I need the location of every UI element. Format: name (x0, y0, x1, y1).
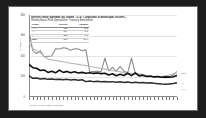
x-tick (166, 97, 167, 100)
x-tick (128, 97, 129, 100)
x-tick (86, 97, 87, 100)
x-tick (177, 97, 178, 100)
x-tick (109, 97, 110, 100)
series-label-aaa: AAA (181, 89, 186, 92)
x-tick (90, 97, 91, 100)
x-tick (169, 97, 170, 100)
x-tick (63, 97, 64, 100)
x-tick (75, 97, 76, 100)
x-tick (158, 97, 159, 100)
series-label-aa: AA (181, 83, 184, 86)
x-tick (56, 97, 57, 100)
x-tick (94, 97, 95, 100)
x-tick (143, 97, 144, 100)
legend-table: GradeCurrentChange AAA118-3.2AA164-5.1A2… (31, 24, 89, 44)
x-tick (135, 97, 136, 100)
legend-row: BBB391-11.4 (31, 39, 89, 43)
y-axis-title: Spread (bp) (19, 38, 22, 51)
x-tick (40, 97, 41, 100)
legend-body: AAA118-3.2AA164-5.1A243-7.8BBB391-11.4 (31, 27, 89, 43)
x-tick (120, 97, 121, 100)
x-tick (82, 97, 83, 100)
x-tick (154, 97, 155, 100)
x-tick (48, 97, 49, 100)
x-tick (71, 97, 72, 100)
legend-cell-current: 391 (48, 39, 68, 43)
x-tick (59, 97, 60, 100)
x-tick (37, 97, 38, 100)
series-label-bbb: BBB (181, 73, 186, 76)
x-axis-ticks (29, 97, 177, 101)
screenshot-frame: 0200400600800 Spread (bp) Interest Rate … (0, 0, 206, 118)
x-tick (162, 97, 163, 100)
x-tick (78, 97, 79, 100)
legend-cell-name: BBB (31, 39, 48, 43)
y-tick-label: 0 (11, 96, 25, 99)
x-tick (116, 97, 117, 100)
legend-cell-change: -11.4 (68, 39, 89, 43)
x-tick (124, 97, 125, 100)
y-tick-label: 200 (11, 75, 25, 78)
chart-page: 0200400600800 Spread (bp) Interest Rate … (8, 6, 198, 111)
x-tick (147, 97, 148, 100)
x-tick (44, 97, 45, 100)
x-tick (105, 97, 106, 100)
y-tick-label: 400 (11, 55, 25, 58)
x-tick (33, 97, 34, 100)
x-tick (101, 97, 102, 100)
title-legend-block: Interest Rate Spreads by Grade - U.S. Co… (31, 16, 127, 43)
chart-footnote: Source: Weekly market composite. (30, 104, 64, 107)
x-tick (139, 97, 140, 100)
x-tick (67, 97, 68, 100)
y-tick-label: 600 (11, 34, 25, 37)
x-tick (113, 97, 114, 100)
x-tick (52, 97, 53, 100)
x-tick (150, 97, 151, 100)
x-tick (132, 97, 133, 100)
x-tick (97, 97, 98, 100)
x-tick (173, 97, 174, 100)
y-tick-label: 800 (11, 14, 25, 17)
x-tick (29, 97, 30, 100)
